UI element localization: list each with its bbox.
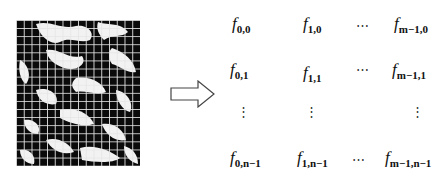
matrix-cell-0-n: f0,n−1 [230,148,261,169]
matrix-cell-1-1: f1,1 [303,63,321,84]
matrix-cell-1-0: f1,0 [303,14,321,35]
horizontal-ellipsis: ⋯ [356,62,370,78]
grid-overlay [16,20,140,166]
matrix-cell-m-1: fm−1,1 [392,60,426,81]
grid-image [16,20,140,166]
horizontal-ellipsis: ⋯ [356,18,370,34]
vertical-ellipsis: ⋮ [305,104,319,120]
vertical-ellipsis: ⋮ [411,104,425,120]
matrix-cell-0-0: f0,0 [232,14,250,35]
matrix-cell-1-n: f1,n−1 [297,148,328,169]
right-arrow-icon [170,80,216,108]
matrix-cell-m-n: fm−1,n−1 [385,148,431,169]
horizontal-ellipsis: ⋯ [352,152,366,168]
vertical-ellipsis: ⋮ [237,104,251,120]
matrix-cell-m-0: fm−1,0 [394,14,428,35]
matrix-cell-0-1: f0,1 [230,60,248,81]
